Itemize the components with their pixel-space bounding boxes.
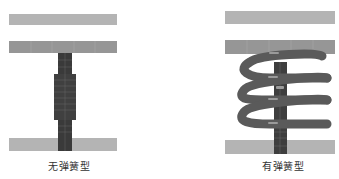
caption-with-spring: 有弹簧型 <box>262 158 304 173</box>
top-plate <box>225 11 335 24</box>
without-spring-diagram <box>0 0 170 179</box>
figure-without-spring: 无弹簧型 <box>0 0 170 179</box>
top-plate <box>9 14 117 25</box>
upper-plate <box>9 41 117 53</box>
with-spring-diagram <box>170 0 339 179</box>
figure-with-spring: 有弹簧型 <box>170 0 339 179</box>
caption-without-spring: 无弹簧型 <box>48 158 90 173</box>
